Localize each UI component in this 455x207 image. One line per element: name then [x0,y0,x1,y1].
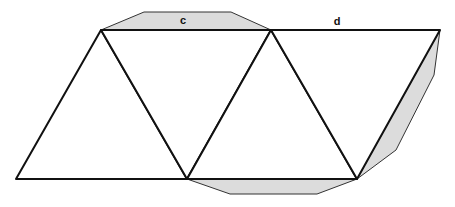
net-diagram: c d [0,0,455,207]
label-c: c [180,14,186,26]
glue-tab-bottom [187,179,357,194]
label-d: d [334,15,341,27]
